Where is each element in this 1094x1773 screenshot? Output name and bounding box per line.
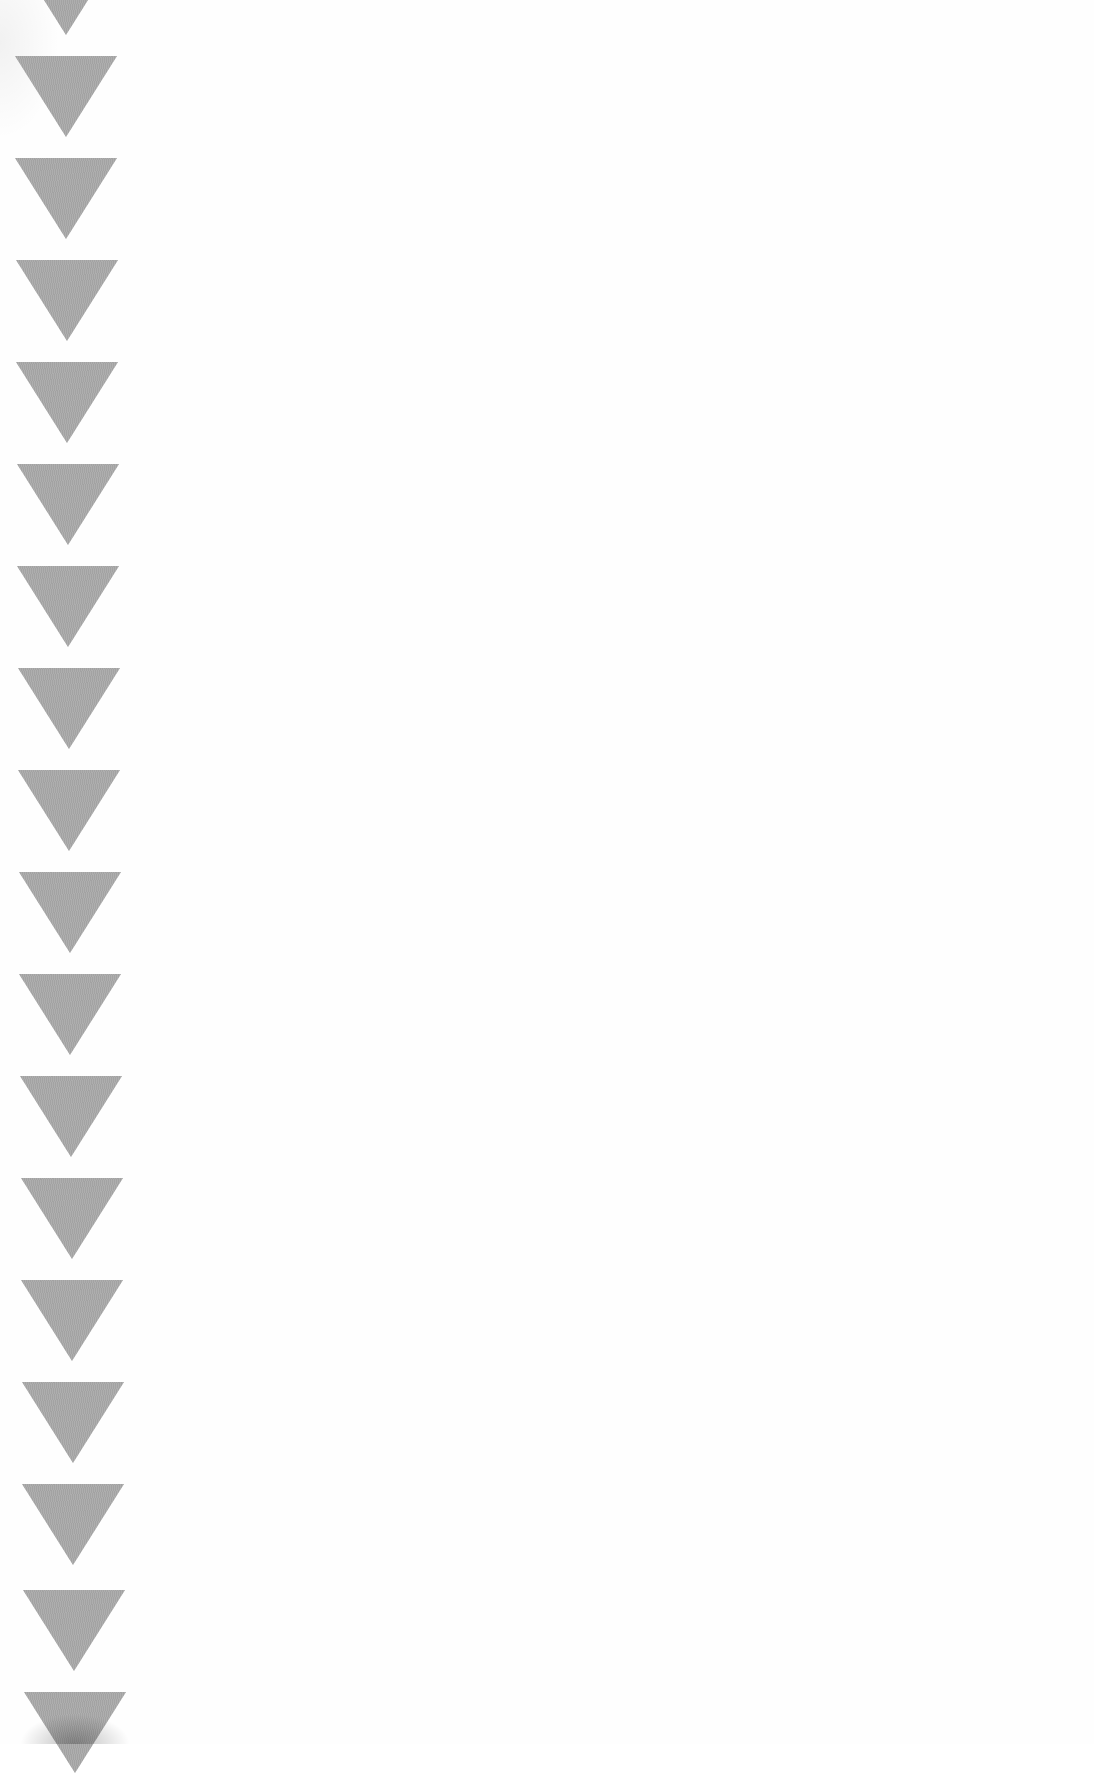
triangle-shape (16, 362, 118, 443)
triangle-shape (15, 158, 117, 239)
triangle-shape (22, 1382, 124, 1463)
triangle-shape (15, 56, 117, 137)
triangle-shape (21, 1178, 123, 1259)
triangle-shape (18, 770, 120, 851)
triangle-shape (21, 1280, 123, 1361)
triangle-shape (18, 668, 120, 749)
triangle-shape (19, 974, 121, 1055)
triangle-shape (22, 1484, 124, 1565)
triangle-shape (15, 0, 117, 35)
bottom-shadow (20, 1714, 130, 1744)
triangle-bunting-column (0, 0, 140, 1744)
triangle-shape (17, 464, 119, 545)
triangle-shape (16, 260, 118, 341)
triangle-shape (20, 1076, 122, 1157)
triangle-shape (17, 566, 119, 647)
triangle-shape (23, 1590, 125, 1671)
triangle-shape (19, 872, 121, 953)
